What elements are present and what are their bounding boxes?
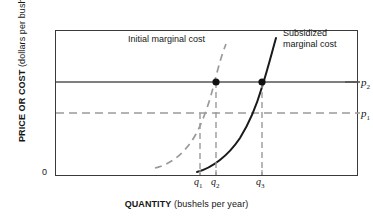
x-tick-label-q1-sub: 1 (199, 182, 203, 190)
annotation-subsidized-marginal-cost: Subsidized marginal cost (283, 28, 337, 50)
x-tick-label-q3-sub: 3 (261, 182, 265, 190)
x-axis-title-bold: QUANTITY (125, 199, 172, 209)
annotation-subsidized-line2: marginal cost (283, 39, 337, 50)
x-tick-label-q3: q3 (256, 176, 265, 190)
price-label-p2: p2 (361, 76, 370, 91)
x-tick-label-q2: q2 (211, 176, 220, 190)
x-tick-label-q2-sub: 2 (216, 182, 220, 190)
price-label-p1-sub: 1 (367, 114, 371, 122)
chart-figure: PRICE OR COST (dollars per bushel) 0 Ini… (0, 0, 373, 221)
plot-frame (56, 31, 358, 176)
price-label-p2-sub: 2 (367, 83, 371, 91)
marker-initial-at-p2 (212, 78, 219, 85)
marker-subsidized-at-p2 (258, 78, 265, 85)
annotation-subsidized-line1: Subsidized (283, 28, 337, 39)
x-axis-title: QUANTITY (bushels per year) (0, 199, 373, 209)
x-tick-label-q1: q1 (194, 176, 203, 190)
x-axis-title-unit: (bushels per year) (171, 199, 248, 209)
annotation-initial-marginal-cost: Initial marginal cost (128, 34, 205, 45)
price-label-p1: p1 (361, 107, 370, 122)
